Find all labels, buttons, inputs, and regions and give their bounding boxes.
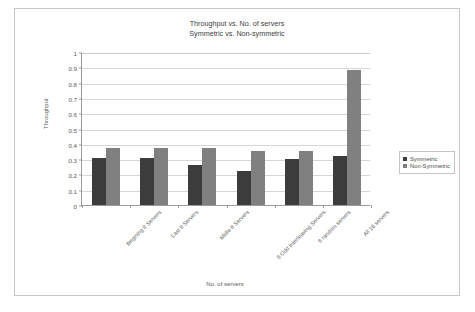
legend-item-label: Symmetric [410, 156, 437, 162]
x-axis-category-label: Last 8 Servers [170, 209, 200, 239]
bar-group [188, 53, 216, 205]
x-axis-category-label: 8 Odd Interleaving Servers [275, 209, 326, 260]
y-axis-tick-label: 0.7 [68, 95, 77, 102]
chart-title-line-2: Symmetric vs. Non-symmetric [15, 29, 459, 39]
chart-frame: Throughput vs. No. of servers Symmetric … [14, 8, 460, 296]
bar-non-symmetric[interactable] [299, 151, 313, 205]
y-axis-tick-label: 0.1 [68, 187, 77, 194]
bars-layer [82, 53, 370, 205]
bar-symmetric[interactable] [285, 159, 299, 205]
y-axis-tick-label: 0 [74, 203, 77, 210]
chart-title: Throughput vs. No. of servers Symmetric … [15, 19, 459, 38]
x-axis-category-label: All 16 servers [362, 209, 390, 237]
x-axis-category-label: Midle 8 Servers [219, 209, 251, 241]
x-axis-tick-mark [275, 205, 276, 208]
chart-title-line-1: Throughput vs. No. of servers [15, 19, 459, 29]
bar-symmetric[interactable] [237, 171, 251, 205]
x-axis-tick-mark [227, 205, 228, 208]
x-axis-tick-mark [130, 205, 131, 208]
chart-legend: SymmetricNon-Symmetric [399, 151, 455, 174]
bar-non-symmetric[interactable] [251, 151, 265, 205]
y-axis-tick-label: 1 [74, 50, 77, 57]
bar-group [333, 53, 361, 205]
y-axis-tick-label: 0.9 [68, 65, 77, 72]
bar-non-symmetric[interactable] [106, 148, 120, 205]
y-axis-tick-label: 0.3 [68, 157, 77, 164]
x-axis-title: No. of servers [81, 281, 369, 287]
y-axis-tick-label: 0.2 [68, 172, 77, 179]
x-axis-tick-mark [371, 205, 372, 208]
x-axis-tick-mark [323, 205, 324, 208]
y-axis-tick-label: 0.5 [68, 126, 77, 133]
y-axis-tick-label: 0.6 [68, 111, 77, 118]
bar-symmetric[interactable] [92, 158, 106, 205]
legend-swatch-icon [403, 164, 407, 168]
bar-group [237, 53, 265, 205]
legend-item[interactable]: Non-Symmetric [403, 163, 450, 169]
plot-area: 10.90.80.70.60.50.40.30.20.10 [81, 53, 370, 206]
bar-group [140, 53, 168, 205]
bar-group [92, 53, 120, 205]
bar-non-symmetric[interactable] [154, 148, 168, 205]
legend-item[interactable]: Symmetric [403, 156, 450, 162]
x-axis-tick-mark [178, 205, 179, 208]
bar-group [285, 53, 313, 205]
x-axis-category-label: Begining 8 Servers [125, 209, 163, 247]
bar-non-symmetric[interactable] [347, 70, 361, 205]
x-axis-tick-mark [82, 205, 83, 208]
legend-swatch-icon [403, 157, 407, 161]
bar-symmetric[interactable] [188, 165, 202, 205]
y-axis-title: Throughput [43, 98, 49, 129]
bar-non-symmetric[interactable] [202, 148, 216, 205]
bar-symmetric[interactable] [333, 156, 347, 205]
legend-item-label: Non-Symmetric [410, 163, 450, 169]
y-axis-tick-label: 0.4 [68, 141, 77, 148]
y-axis-tick-label: 0.8 [68, 80, 77, 87]
bar-symmetric[interactable] [140, 158, 154, 205]
